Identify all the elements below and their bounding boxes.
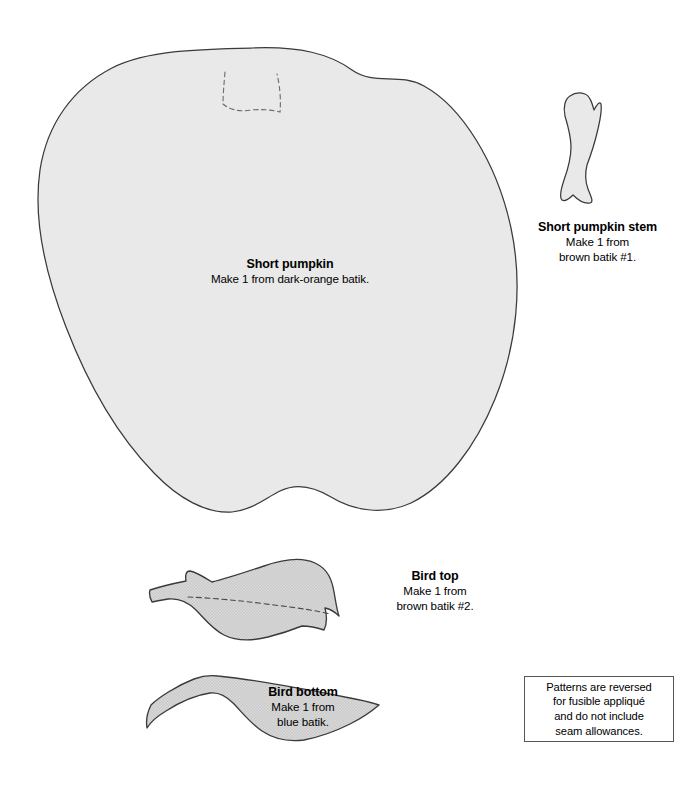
bird-top-shape [150, 559, 339, 639]
note-line-1: Patterns are reversed [546, 680, 651, 695]
bird-top-label: Bird top Make 1 from brown batik #2. [355, 568, 515, 614]
bird-bottom-title: Bird bottom [218, 684, 388, 700]
pattern-note-box: Patterns are reversed for fusible appliq… [524, 676, 674, 742]
note-line-2: for fusible appliqué [553, 694, 645, 709]
bird-top-instruction-line-1: Make 1 from [355, 584, 515, 599]
short-pumpkin-stem-shape [561, 93, 602, 203]
bird-top-title: Bird top [355, 568, 515, 584]
bird-bottom-label: Bird bottom Make 1 from blue batik. [218, 684, 388, 730]
short-pumpkin-instruction: Make 1 from dark-orange batik. [145, 272, 435, 287]
bird-bottom-instruction-line-2: blue batik. [218, 715, 388, 730]
bird-top-instruction-line-2: brown batik #2. [355, 599, 515, 614]
short-pumpkin-stem-title: Short pumpkin stem [510, 219, 685, 235]
short-pumpkin-stem-instruction-line-2: brown batik #1. [510, 250, 685, 265]
note-line-3: and do not include [554, 709, 644, 724]
short-pumpkin-label: Short pumpkin Make 1 from dark-orange ba… [145, 256, 435, 287]
note-line-4: seam allowances. [555, 724, 642, 739]
short-pumpkin-stem-instruction-line-1: Make 1 from [510, 235, 685, 250]
short-pumpkin-stem-label: Short pumpkin stem Make 1 from brown bat… [510, 219, 685, 265]
short-pumpkin-title: Short pumpkin [145, 256, 435, 272]
bird-bottom-instruction-line-1: Make 1 from [218, 700, 388, 715]
pattern-sheet: Short pumpkin Make 1 from dark-orange ba… [0, 0, 685, 795]
